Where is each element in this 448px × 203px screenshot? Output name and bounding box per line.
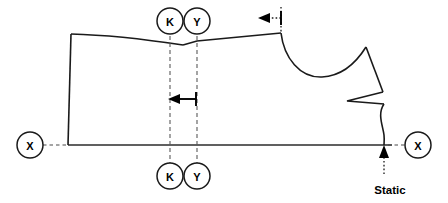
marker-top-k-label: K <box>166 16 174 28</box>
marker-top-k[interactable]: K <box>157 8 183 34</box>
marker-right-x-label: X <box>414 140 422 152</box>
marker-right-x[interactable]: X <box>405 132 431 158</box>
marker-bottom-k-label: K <box>166 171 174 183</box>
marker-left-x[interactable]: X <box>17 132 43 158</box>
upper-edge-left <box>71 34 183 45</box>
static-callout-group: Static <box>374 145 406 196</box>
marker-left-x-label: X <box>26 140 34 152</box>
neck-arrow-head <box>258 13 270 23</box>
static-label: Static <box>374 184 406 196</box>
center-front-edge <box>68 34 71 145</box>
armhole-scoop-curve <box>281 33 366 77</box>
pattern-drawing: Static K Y K Y X <box>0 0 448 203</box>
dart-notch <box>347 92 384 104</box>
right-upper-side-seam <box>366 47 383 92</box>
shoulder-edge-right <box>183 33 281 45</box>
width-measure-arrow <box>168 92 196 106</box>
static-arrow-head <box>379 145 389 158</box>
marker-top-y[interactable]: Y <box>184 8 210 34</box>
marker-bottom-k[interactable]: K <box>157 163 183 189</box>
pattern-outline-group <box>68 33 384 145</box>
marker-bottom-y-label: Y <box>193 171 201 183</box>
pattern-diagram-canvas: Static K Y K Y X <box>0 0 448 203</box>
right-lower-side-seam <box>381 104 385 145</box>
neck-point-arrow <box>258 7 281 33</box>
marker-top-y-label: Y <box>193 16 201 28</box>
marker-bottom-y[interactable]: Y <box>184 163 210 189</box>
